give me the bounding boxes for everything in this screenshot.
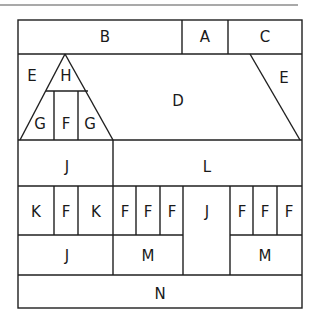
region-label-k2: K — [91, 203, 102, 221]
region-label-c: C — [260, 28, 270, 46]
region-label-f7: F — [285, 203, 294, 221]
region-label-g-right: G — [84, 115, 96, 133]
region-label-f1: F — [62, 203, 71, 221]
region-label-j-mid: J — [204, 203, 209, 221]
region-label-e-left: E — [27, 67, 36, 85]
region-label-m1: M — [142, 247, 155, 265]
region-label-n: N — [154, 285, 165, 303]
region-label-j-top: J — [64, 158, 69, 176]
region-label-f6: F — [261, 203, 270, 221]
layout-diagram: B A C E H D E G F G J L K F K F F F J F … — [0, 0, 316, 325]
region-label-k1: K — [31, 203, 42, 221]
region-label-m2: M — [259, 247, 272, 265]
region-label-g-left: G — [34, 115, 46, 133]
region-label-h: H — [60, 67, 71, 85]
region-label-e-right: E — [279, 69, 288, 87]
region-label-j-bottom: J — [64, 247, 69, 265]
region-label-f2: F — [121, 203, 130, 221]
region-label-f5: F — [238, 203, 247, 221]
region-label-f3: F — [144, 203, 153, 221]
region-label-f4: F — [168, 203, 177, 221]
region-label-a: A — [200, 28, 211, 46]
region-label-l: L — [203, 158, 212, 176]
region-label-f-triangle: F — [62, 115, 71, 133]
right-diagonal — [250, 54, 300, 140]
region-label-d: D — [172, 92, 184, 110]
region-label-b: B — [100, 28, 110, 46]
